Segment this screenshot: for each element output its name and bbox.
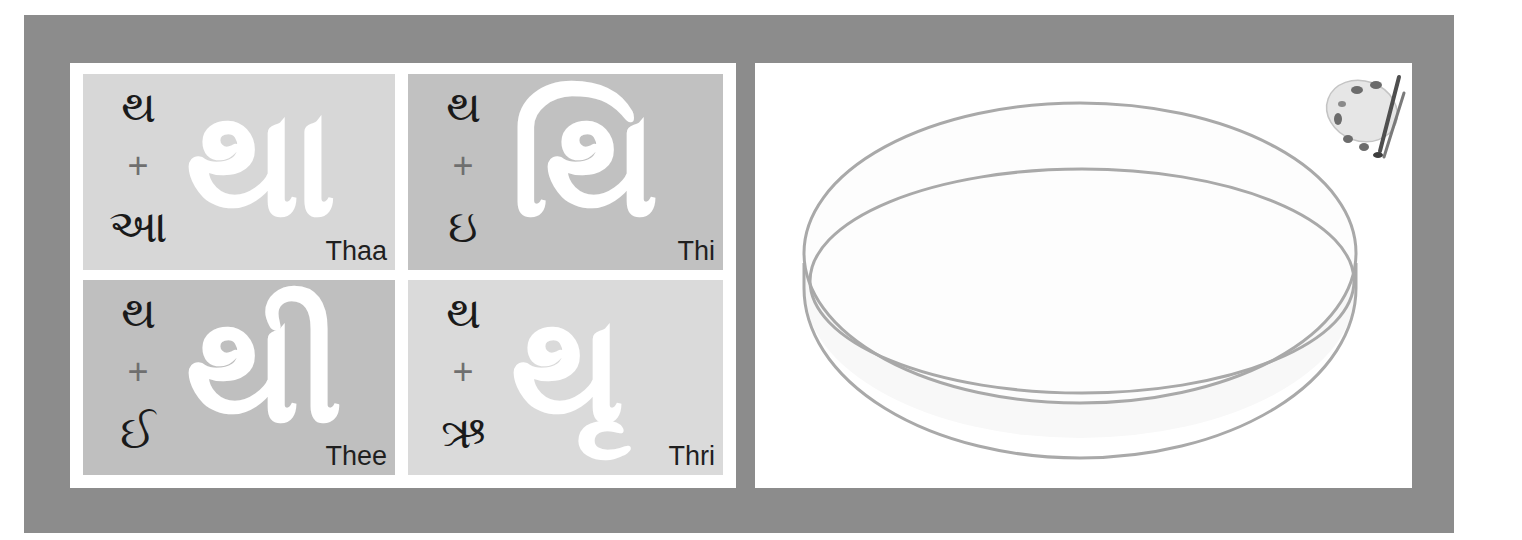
combined-syllable-glyph: થા <box>185 74 337 258</box>
syllable-label: Thri <box>669 441 716 471</box>
vowel-glyph: આ <box>103 200 173 252</box>
paint-tray-illustration <box>755 63 1412 488</box>
vowel-glyph: ઇ <box>428 200 498 252</box>
syllable-label: Thi <box>677 236 715 266</box>
combined-syllable-glyph: થિ <box>510 74 659 258</box>
syllable-label: Thee <box>325 441 387 471</box>
syllable-formula: થ + ઋ <box>408 280 508 475</box>
vowel-glyph: ઈ <box>103 406 173 458</box>
syllable-formula: થ + ઈ <box>83 280 183 475</box>
combined-syllable-glyph: થી <box>185 280 343 464</box>
plus-sign: + <box>103 352 173 392</box>
plus-sign: + <box>428 146 498 186</box>
plus-sign: + <box>103 146 173 186</box>
paint-palette-icon[interactable] <box>1320 69 1410 159</box>
consonant-glyph: થ <box>428 80 498 132</box>
syllable-formula: થ + આ <box>83 74 183 270</box>
consonant-glyph: થ <box>428 286 498 338</box>
syllable-tile-thaa[interactable]: થ + આ થા Thaa <box>83 74 395 270</box>
syllable-label: Thaa <box>325 236 387 266</box>
combined-syllable-glyph: થૃ <box>510 280 625 464</box>
consonant-glyph: થ <box>103 286 173 338</box>
syllable-formula: થ + ઇ <box>408 74 508 270</box>
syllable-tile-thri[interactable]: થ + ઋ થૃ Thri <box>408 280 723 475</box>
plus-sign: + <box>428 352 498 392</box>
drawing-area-panel[interactable] <box>755 63 1412 488</box>
consonant-glyph: થ <box>103 80 173 132</box>
syllable-tile-thi[interactable]: થ + ઇ થિ Thi <box>408 74 723 270</box>
vowel-glyph: ઋ <box>428 406 498 458</box>
syllable-tile-thee[interactable]: થ + ઈ થી Thee <box>83 280 395 475</box>
syllable-grid-panel: થ + આ થા Thaa થ + ઇ થિ Thi થ + ઈ થી Thee… <box>70 63 736 488</box>
